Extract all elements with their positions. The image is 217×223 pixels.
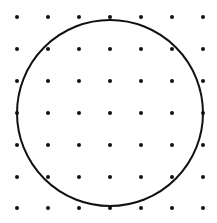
grid-dot — [77, 15, 81, 19]
grid-dot — [201, 206, 205, 210]
grid-dot — [46, 143, 50, 147]
grid-dot — [15, 79, 19, 83]
grid-dot — [46, 47, 50, 51]
grid-dot — [77, 143, 81, 147]
grid-dot — [201, 175, 205, 179]
grid-dot — [77, 175, 81, 179]
grid-dot — [201, 47, 205, 51]
grid-dot — [108, 111, 112, 115]
grid-dot — [77, 47, 81, 51]
grid-dot — [15, 15, 19, 19]
grid-dot — [201, 79, 205, 83]
grid-dot — [170, 206, 174, 210]
grid-dot — [108, 175, 112, 179]
grid-dot — [139, 15, 143, 19]
grid-dot — [15, 175, 19, 179]
grid-dot — [108, 47, 112, 51]
grid-dot — [170, 175, 174, 179]
grid-dot — [139, 143, 143, 147]
grid-dot — [108, 15, 112, 19]
grid-dot — [170, 15, 174, 19]
grid-dot — [139, 111, 143, 115]
grid-dot — [139, 47, 143, 51]
grid-dot — [108, 79, 112, 83]
grid-dot — [15, 47, 19, 51]
grid-dot — [46, 206, 50, 210]
grid-dot — [77, 111, 81, 115]
grid-dot — [46, 15, 50, 19]
grid-dot — [170, 111, 174, 115]
grid-dot — [139, 206, 143, 210]
dot-grid — [15, 15, 205, 210]
grid-dot — [201, 143, 205, 147]
grid-dot — [15, 143, 19, 147]
grid-dot — [108, 143, 112, 147]
grid-dot — [46, 79, 50, 83]
dot-grid-diagram — [0, 0, 217, 223]
grid-dot — [77, 79, 81, 83]
grid-dot — [201, 15, 205, 19]
grid-dot — [46, 175, 50, 179]
grid-dot — [46, 111, 50, 115]
grid-dot — [170, 79, 174, 83]
grid-dot — [139, 79, 143, 83]
grid-dot — [139, 175, 143, 179]
grid-dot — [15, 206, 19, 210]
grid-dot — [170, 143, 174, 147]
diagram-canvas — [0, 0, 217, 223]
grid-dot — [170, 47, 174, 51]
grid-dot — [77, 206, 81, 210]
